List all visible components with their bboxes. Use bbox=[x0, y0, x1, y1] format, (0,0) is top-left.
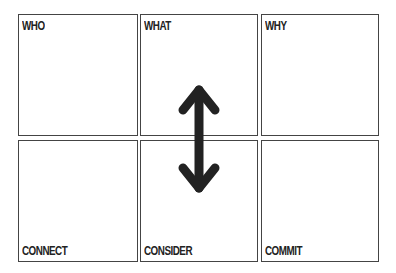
double-headed-vertical-arrow-icon bbox=[176, 82, 222, 196]
cell-commit: COMMIT bbox=[261, 140, 379, 262]
cell-label-what: WHAT bbox=[144, 20, 171, 32]
cell-who: WHO bbox=[18, 14, 138, 136]
cell-label-consider: CONSIDER bbox=[144, 245, 192, 257]
cell-why: WHY bbox=[261, 14, 379, 136]
cell-label-why: WHY bbox=[265, 20, 286, 32]
cell-label-who: WHO bbox=[22, 20, 45, 32]
cell-label-connect: CONNECT bbox=[22, 245, 67, 257]
cell-connect: CONNECT bbox=[18, 140, 138, 262]
cell-label-commit: COMMIT bbox=[265, 245, 302, 257]
